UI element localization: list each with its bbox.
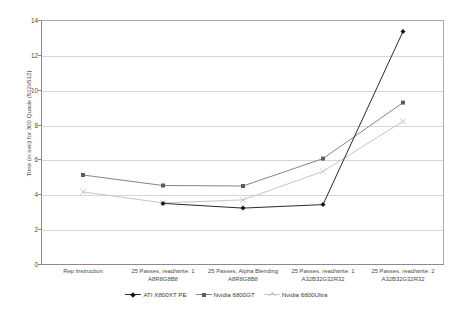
y-axis: 14 12 10 8 6 4 2 0 Time (in sec) for 300… [0,0,453,310]
y-tick-mark [38,20,41,21]
line-chart: 14 12 10 8 6 4 2 0 Time (in sec) for 300… [0,0,453,310]
chart-legend: ATI X800XT PE Nvidia 6800GT Nvidia 6800U… [0,291,453,298]
x-tick-label-4: 25 Passes, read/write: 2 A32B32G32R32 [343,268,453,283]
legend-label: Nvidia 6800GT [214,291,255,298]
legend-label: ATI X800XT PE [143,291,186,298]
y-tick-mark [38,90,41,91]
legend-marker-cross-icon [264,291,280,298]
legend-item-nvidia-6800ultra[interactable]: Nvidia 6800Ultra [264,291,328,298]
legend-marker-diamond-icon [125,291,141,298]
y-tick-mark [38,194,41,195]
y-tick-label: 2 [12,226,38,233]
y-tick-label: 0 [12,261,38,268]
y-tick-label: 14 [12,17,38,24]
y-tick-mark [38,55,41,56]
x-label-line1: 25 Passes, read/write: 2 [371,268,434,274]
x-label-line1: Rep Instruction [63,268,103,274]
legend-label: Nvidia 6800Ultra [282,291,328,298]
y-tick-mark [38,229,41,230]
legend-marker-square-icon [196,291,212,298]
y-tick-mark [38,159,41,160]
y-tick-mark [38,125,41,126]
legend-item-nvidia-6800gt[interactable]: Nvidia 6800GT [196,291,255,298]
y-axis-title: Time (in sec) for 300 Quads (512x512) [25,44,32,204]
x-label-line2: A32B32G32R32 [343,276,453,284]
legend-item-ati-x800xt-pe[interactable]: ATI X800XT PE [125,291,186,298]
y-tick-mark [38,264,41,265]
